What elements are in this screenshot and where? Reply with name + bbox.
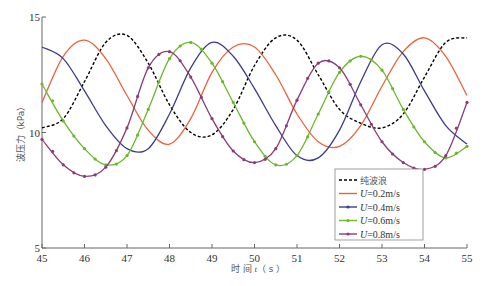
data-marker	[370, 123, 373, 126]
data-marker	[370, 58, 373, 61]
line-chart: 4546474849505152535455 51015 波压力（kPa） 时 …	[0, 0, 488, 286]
data-marker	[295, 99, 298, 102]
data-marker	[306, 135, 309, 138]
data-marker	[327, 90, 330, 93]
x-tick-label: 55	[462, 252, 474, 264]
series-line	[42, 34, 467, 137]
data-marker	[94, 157, 97, 160]
data-marker	[434, 165, 437, 168]
data-marker	[306, 77, 309, 80]
data-marker	[317, 62, 320, 65]
data-marker	[242, 158, 245, 161]
x-axis-label: 时 间 t（ s ）	[231, 263, 286, 274]
x-tick-label: 52	[334, 252, 345, 264]
data-marker	[274, 163, 277, 166]
series-0	[42, 34, 467, 137]
data-marker	[83, 175, 86, 178]
data-marker	[295, 154, 298, 157]
x-tick-label: 49	[207, 252, 219, 264]
data-marker	[444, 154, 447, 157]
x-tick-label: 46	[79, 252, 91, 264]
data-marker	[147, 108, 150, 111]
data-marker	[40, 82, 43, 85]
data-marker	[221, 135, 224, 138]
data-marker	[200, 96, 203, 99]
data-marker	[327, 59, 330, 62]
data-marker	[94, 173, 97, 176]
x-tick-label: 54	[419, 252, 431, 264]
x-tick-label: 47	[122, 252, 134, 264]
data-marker	[391, 87, 394, 90]
data-marker	[232, 149, 235, 152]
y-axis-label: 波压力（kPa）	[15, 102, 26, 163]
data-marker	[285, 163, 288, 166]
data-marker	[72, 135, 75, 138]
data-marker	[317, 112, 320, 115]
data-marker	[412, 125, 415, 128]
data-marker	[168, 50, 171, 53]
data-marker	[402, 161, 405, 164]
data-marker	[115, 163, 118, 166]
data-marker	[423, 140, 426, 143]
data-marker	[125, 126, 128, 129]
data-marker	[274, 147, 277, 150]
data-marker	[62, 119, 65, 122]
data-marker	[210, 117, 213, 120]
data-marker	[232, 101, 235, 104]
data-marker	[242, 122, 245, 125]
data-marker	[455, 152, 458, 155]
data-marker	[189, 75, 192, 78]
legend-marker	[346, 232, 349, 235]
data-marker	[338, 71, 341, 74]
x-ticks: 4546474849505152535455	[37, 244, 474, 264]
x-tick-label: 51	[292, 252, 303, 264]
data-marker	[221, 80, 224, 83]
legend: 纯波浪U=0.2m/sU=0.4m/sU=0.6m/sU=0.8m/s	[335, 169, 423, 240]
data-marker	[465, 145, 468, 148]
data-marker	[136, 95, 139, 98]
data-marker	[210, 62, 213, 65]
data-marker	[189, 41, 192, 44]
legend-label: 纯波浪	[360, 175, 387, 186]
y-tick-label: 10	[29, 127, 41, 139]
y-tick-label: 15	[29, 11, 41, 23]
data-marker	[359, 103, 362, 106]
data-marker	[465, 101, 468, 104]
data-marker	[179, 59, 182, 62]
data-marker	[157, 81, 160, 84]
data-marker	[349, 59, 352, 62]
data-marker	[253, 161, 256, 164]
series-group	[40, 34, 468, 178]
x-tick-label: 48	[164, 252, 176, 264]
data-marker	[285, 124, 288, 127]
data-marker	[391, 152, 394, 155]
data-marker	[51, 99, 54, 102]
data-marker	[264, 158, 267, 161]
data-marker	[168, 57, 171, 60]
legend-label: U=0.4m/s	[360, 202, 400, 213]
data-marker	[253, 140, 256, 143]
legend-marker	[346, 205, 349, 208]
legend-marker	[346, 219, 349, 222]
data-marker	[115, 149, 118, 152]
series-line	[42, 42, 467, 165]
data-marker	[147, 66, 150, 69]
data-marker	[51, 150, 54, 153]
data-marker	[83, 147, 86, 150]
data-marker	[72, 171, 75, 174]
data-marker	[104, 166, 107, 169]
data-marker	[338, 66, 341, 69]
data-marker	[380, 69, 383, 72]
data-marker	[157, 53, 160, 56]
x-tick-label: 53	[377, 252, 389, 264]
data-marker	[402, 108, 405, 111]
legend-label: U=0.2m/s	[360, 188, 400, 199]
data-marker	[349, 83, 352, 86]
series-4	[40, 50, 468, 178]
data-marker	[125, 154, 128, 157]
data-marker	[40, 138, 43, 141]
data-marker	[380, 140, 383, 143]
data-marker	[136, 133, 139, 136]
legend-label: U=0.6m/s	[360, 215, 400, 226]
data-marker	[359, 55, 362, 58]
